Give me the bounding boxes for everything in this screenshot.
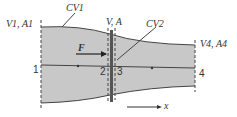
cv1-label: CV1 <box>66 2 84 13</box>
station-4-label: 4 <box>199 68 205 79</box>
x-axis-label: x <box>164 100 168 111</box>
cv1-leader <box>62 13 75 27</box>
duct-body <box>41 27 195 103</box>
station-1-label: 1 <box>33 64 39 75</box>
cv2-label: CV2 <box>146 18 164 29</box>
control-surface-strip <box>110 30 113 102</box>
inlet-label: V1, A1 <box>6 18 33 29</box>
station-2-label: 2 <box>100 66 106 77</box>
mid-label: V, A <box>106 16 122 27</box>
force-label: F <box>78 42 85 53</box>
station-3-label: 3 <box>117 66 123 77</box>
outlet-label: V4, A4 <box>200 38 227 49</box>
